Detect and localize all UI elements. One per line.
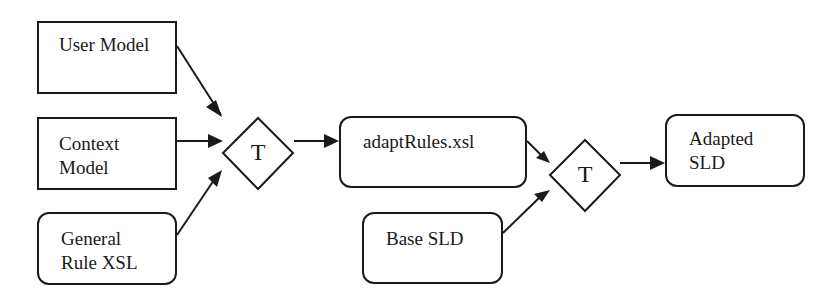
node-context-model: Context Model <box>37 117 177 190</box>
node-general-rule-xsl: General Rule XSL <box>37 212 177 285</box>
arrow-adapt-rules-to-t2 <box>527 141 541 155</box>
arrowhead-icon <box>206 100 222 117</box>
arrowhead-icon <box>650 156 665 170</box>
arrow-base-sld-to-t2 <box>503 197 540 233</box>
node-label: Context Model <box>59 132 119 180</box>
diagram-canvas: User Model Context Model General Rule XS… <box>0 0 838 302</box>
node-adapted-sld: Adapted SLD <box>665 114 805 187</box>
transform-label-2: T <box>570 161 600 188</box>
transform-label-1: T <box>243 139 273 166</box>
node-label: General Rule XSL <box>61 227 138 275</box>
arrowhead-icon <box>324 134 339 148</box>
arrow-general-rule-to-t1 <box>177 180 214 235</box>
node-label: User Model <box>59 33 149 57</box>
node-label: Base SLD <box>386 227 464 251</box>
node-adapt-rules-xsl: adaptRules.xsl <box>339 116 527 188</box>
arrowhead-icon <box>208 134 223 148</box>
node-base-sld: Base SLD <box>362 212 503 284</box>
node-user-model: User Model <box>37 21 177 94</box>
node-label: Adapted SLD <box>689 127 753 175</box>
node-label: adaptRules.xsl <box>363 130 474 154</box>
